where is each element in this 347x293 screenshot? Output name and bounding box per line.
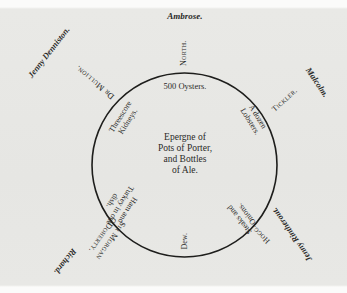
dish-oysters: 500 Oysters.	[155, 82, 215, 91]
centerpiece-label: Epergne of Pots of Porter, and Bottles o…	[140, 132, 230, 176]
seat-north: North.	[180, 33, 188, 73]
seat-dew: Dew.	[181, 228, 189, 254]
diagram-page: Epergne of Pots of Porter, and Bottles o…	[0, 0, 347, 293]
attendant-ambrose: Ambrose.	[160, 12, 210, 21]
